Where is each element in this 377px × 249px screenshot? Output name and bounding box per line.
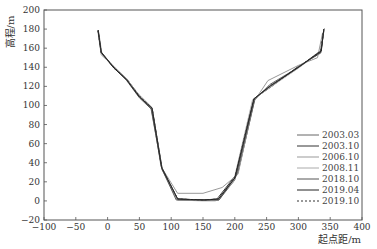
series-lines [98,28,324,201]
plot-frame [44,10,362,220]
y-tick-label: 20 [29,177,41,187]
series-line-2003-03 [98,29,324,200]
y-tick-label: 140 [23,62,40,72]
y-tick-label: 180 [23,24,40,34]
legend-label: 2003.10 [322,141,359,151]
y-tick-label: −20 [21,215,40,225]
legend-label: 2019.10 [322,196,359,206]
y-axis-ticks: −20020406080100120140160180200 [21,5,47,225]
legend-label: 2006.10 [322,152,359,162]
y-axis-title: 高程/m [4,15,16,48]
series-line-2003-10 [98,30,324,200]
legend-label: 2018.10 [322,174,359,184]
y-tick-label: 200 [23,5,40,15]
x-tick-label: 50 [134,222,146,232]
legend-label: 2008.11 [322,163,359,173]
x-tick-label: 0 [105,222,111,232]
x-tick-label: 400 [353,222,370,232]
y-tick-label: 0 [34,196,40,206]
x-axis-title: 起点距/m [318,234,361,245]
x-tick-label: 350 [322,222,339,232]
x-tick-label: 200 [226,222,243,232]
x-tick-label: −50 [66,222,85,232]
series-line-2006-10 [99,32,323,193]
legend-label: 2003.03 [322,130,359,140]
x-tick-label: 250 [258,222,275,232]
y-tick-label: 100 [23,100,40,110]
series-line-2019-04 [98,29,324,200]
series-line-2018-10 [98,30,324,200]
y-tick-label: 40 [29,158,41,168]
y-tick-label: 120 [23,81,40,91]
legend-label: 2019.04 [322,185,359,195]
x-axis-ticks: −100−50050100150200250300350400 [32,217,371,232]
series-line-2019-10 [98,29,324,200]
y-tick-label: 160 [23,43,40,53]
legend: 2003.032003.102006.102008.112018.102019.… [297,130,359,206]
elevation-profile-chart: −100−50050100150200250300350400 −2002040… [0,0,377,249]
x-tick-label: 300 [290,222,307,232]
x-tick-label: 150 [194,222,211,232]
y-tick-label: 80 [29,120,41,130]
series-line-2008-11 [98,28,324,201]
y-tick-label: 60 [29,139,41,149]
x-tick-label: 100 [163,222,180,232]
